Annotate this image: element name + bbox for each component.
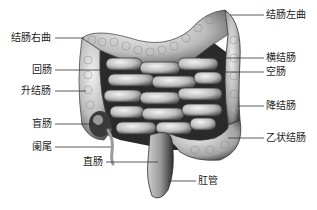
label-appendix: 阑尾 bbox=[32, 141, 52, 153]
label-anal-canal: 肛管 bbox=[198, 175, 218, 187]
label-jejunum: 空肠 bbox=[266, 66, 286, 78]
label-transverse-colon: 横结肠 bbox=[266, 52, 296, 64]
intestine-diagram: 结肠右曲 回肠 升结肠 盲肠 阑尾 直肠 结肠左曲 横结肠 空肠 降结肠 乙状结… bbox=[0, 0, 317, 210]
label-descending-colon: 降结肠 bbox=[266, 100, 296, 112]
label-ileum: 回肠 bbox=[32, 64, 52, 76]
label-ascending-colon: 升结肠 bbox=[21, 85, 51, 97]
label-left-colic-flexure: 结肠左曲 bbox=[266, 9, 306, 21]
label-rectum: 直肠 bbox=[83, 156, 103, 168]
label-right-colic-flexure: 结肠右曲 bbox=[11, 32, 51, 44]
rectum-shape bbox=[148, 132, 174, 198]
label-sigmoid-colon: 乙状结肠 bbox=[266, 132, 306, 144]
label-cecum: 盲肠 bbox=[32, 118, 52, 130]
small-intestine-loops bbox=[104, 58, 222, 134]
